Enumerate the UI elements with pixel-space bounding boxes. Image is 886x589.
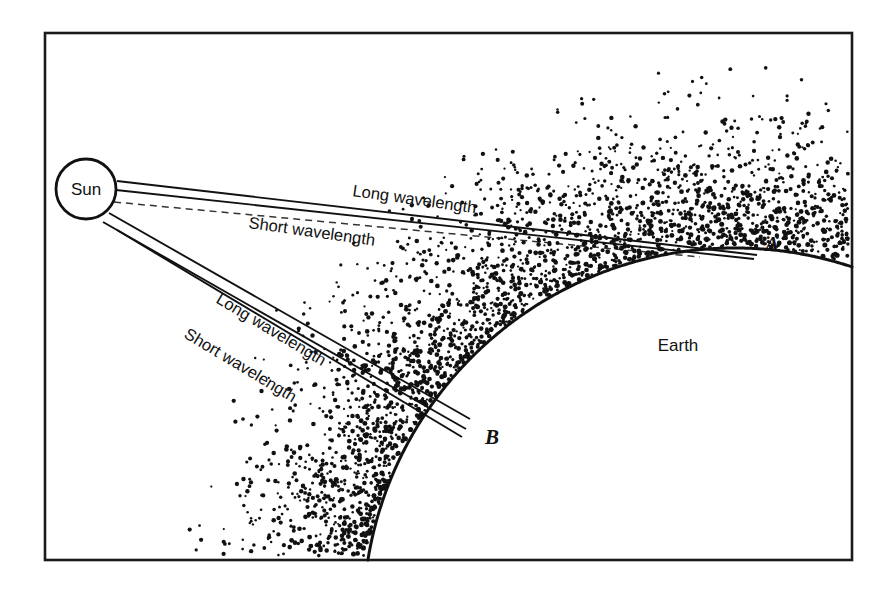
atmosphere-dot	[637, 233, 639, 235]
atmosphere-dot	[329, 470, 332, 473]
atmosphere-dot	[324, 520, 328, 524]
atmosphere-dot	[553, 279, 556, 282]
atmosphere-dot	[295, 462, 298, 465]
atmosphere-dot	[333, 398, 338, 403]
atmosphere-dot	[419, 225, 423, 229]
atmosphere-dot	[255, 415, 259, 419]
atmosphere-dot	[837, 166, 839, 168]
atmosphere-dot	[292, 450, 297, 455]
atmosphere-dot	[235, 482, 239, 486]
atmosphere-dot	[482, 302, 486, 306]
atmosphere-dot	[294, 496, 297, 499]
atmosphere-dot	[552, 190, 555, 193]
atmosphere-dot	[698, 145, 700, 147]
atmosphere-dot	[445, 357, 449, 361]
atmosphere-dot	[782, 208, 786, 212]
atmosphere-dot	[607, 160, 611, 164]
atmosphere-dot	[331, 369, 334, 372]
atmosphere-dot	[655, 238, 660, 243]
atmosphere-dot	[340, 528, 344, 532]
atmosphere-dot	[491, 301, 493, 303]
atmosphere-dot	[245, 460, 248, 463]
atmosphere-dot	[519, 229, 523, 233]
atmosphere-dot	[566, 246, 569, 249]
atmosphere-dot	[711, 192, 716, 197]
atmosphere-dot	[753, 191, 756, 194]
atmosphere-dot	[609, 171, 613, 175]
atmosphere-dot	[265, 441, 269, 445]
atmosphere-dot	[319, 464, 322, 467]
atmosphere-dot	[840, 237, 844, 241]
atmosphere-dot	[750, 229, 754, 233]
atmosphere-dot	[314, 515, 317, 518]
atmosphere-dot	[393, 379, 396, 382]
atmosphere-dot	[735, 185, 737, 187]
atmosphere-dot	[335, 281, 337, 283]
atmosphere-dot	[584, 268, 589, 273]
atmosphere-dot	[387, 343, 391, 347]
atmosphere-dot	[499, 320, 502, 323]
atmosphere-dot	[757, 168, 760, 171]
atmosphere-dot	[825, 215, 828, 218]
atmosphere-dot	[376, 262, 379, 265]
atmosphere-dot	[350, 329, 353, 332]
atmosphere-dot	[567, 185, 569, 187]
atmosphere-dot	[273, 479, 278, 484]
atmosphere-dot	[323, 494, 326, 497]
atmosphere-dot	[480, 257, 483, 260]
atmosphere-dot	[638, 226, 641, 229]
atmosphere-dot	[436, 276, 438, 278]
atmosphere-dot	[435, 261, 439, 265]
atmosphere-dot	[601, 213, 604, 216]
atmosphere-dot	[337, 434, 341, 438]
atmosphere-dot	[826, 192, 830, 196]
atmosphere-dot	[588, 151, 590, 153]
atmosphere-dot	[510, 195, 513, 198]
atmosphere-dot	[242, 504, 246, 508]
atmosphere-dot	[475, 336, 479, 340]
atmosphere-dot	[453, 322, 456, 325]
atmosphere-dot	[346, 489, 350, 493]
atmosphere-dot	[371, 365, 373, 367]
atmosphere-dot	[342, 507, 346, 511]
atmosphere-dot	[636, 204, 639, 207]
atmosphere-dot	[610, 183, 612, 185]
atmosphere-dot	[799, 209, 804, 214]
atmosphere-dot	[572, 220, 576, 224]
atmosphere-dot	[627, 257, 631, 261]
atmosphere-dot	[372, 427, 377, 432]
atmosphere-dot	[484, 271, 487, 274]
atmosphere-dot	[842, 188, 844, 190]
atmosphere-dot	[401, 404, 404, 407]
atmosphere-dot	[716, 217, 721, 222]
atmosphere-dot	[329, 361, 331, 363]
atmosphere-dot	[580, 97, 583, 100]
atmosphere-dot	[278, 463, 280, 465]
atmosphere-dot	[711, 212, 714, 215]
atmosphere-dot	[292, 381, 296, 385]
atmosphere-dot	[232, 399, 236, 403]
atmosphere-dot	[781, 120, 785, 124]
atmosphere-dot	[740, 190, 743, 193]
atmosphere-dot	[630, 231, 632, 233]
atmosphere-dot	[505, 264, 507, 266]
atmosphere-dot	[512, 163, 516, 167]
atmosphere-dot	[344, 548, 347, 551]
atmosphere-dot	[653, 217, 656, 220]
atmosphere-dot	[365, 410, 367, 412]
atmosphere-dot	[711, 243, 714, 246]
atmosphere-dot	[818, 210, 821, 213]
atmosphere-dot	[596, 252, 601, 257]
atmosphere-dot	[249, 480, 253, 484]
atmosphere-dot	[589, 252, 593, 256]
atmosphere-dot	[824, 102, 827, 105]
atmosphere-dot	[643, 224, 647, 228]
atmosphere-dot	[502, 269, 506, 273]
atmosphere-dot	[726, 227, 729, 230]
atmosphere-dot	[479, 233, 481, 235]
atmosphere-dot	[492, 309, 495, 312]
atmosphere-dot	[221, 552, 225, 556]
atmosphere-dot	[661, 191, 665, 195]
atmosphere-dot	[429, 363, 433, 367]
atmosphere-dot	[271, 408, 274, 411]
